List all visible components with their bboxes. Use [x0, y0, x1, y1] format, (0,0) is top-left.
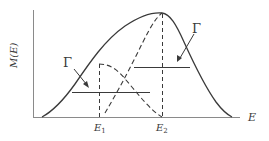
component-1-curve	[99, 64, 162, 117]
x-axis-label: E	[247, 111, 256, 124]
gamma-label-left: Γ	[63, 55, 72, 70]
y-axis-label: M(E)	[8, 43, 19, 69]
arrowhead-left-icon	[83, 81, 89, 88]
peak-diagram: Γ Γ M(E) E E1 E2	[0, 0, 269, 141]
component-2-curve	[105, 13, 162, 113]
tick-label-e2: E2	[155, 122, 168, 135]
diagram-canvas: Γ Γ M(E) E E1 E2	[0, 0, 269, 141]
tick-label-e1: E1	[93, 122, 106, 135]
gamma-label-right: Γ	[192, 21, 201, 36]
